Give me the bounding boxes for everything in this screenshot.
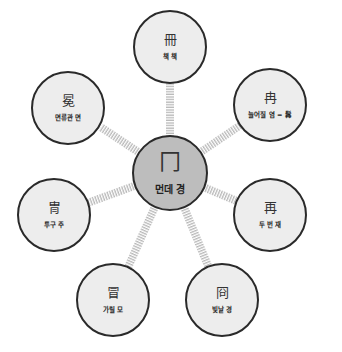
node-hanja: 冊 (164, 33, 177, 46)
node-label: 두 번 재 (259, 219, 282, 229)
node-hanja: 冒 (107, 286, 120, 299)
node-upper-left: 冕 면류관 면 (31, 71, 105, 145)
node-label: 늘어질 염 = 髥 (248, 109, 291, 119)
hub-hanja: 冂 (159, 151, 181, 173)
hub-node: 冂 먼데 경 (132, 135, 208, 211)
node-hanja: 冑 (48, 201, 61, 214)
node-label: 빛날 경 (212, 304, 232, 314)
node-left: 冑 투구 주 (17, 178, 91, 252)
node-label: 가릴 모 (103, 304, 123, 314)
node-lower-right: 冏 빛날 경 (185, 263, 259, 337)
node-lower-left: 冒 가릴 모 (76, 263, 150, 337)
node-upper-right: 冉 늘어질 염 = 髥 (233, 68, 307, 142)
connector-lines (166, 83, 174, 137)
node-hanja: 冕 (62, 94, 75, 107)
node-label: 투구 주 (44, 219, 64, 229)
node-hanja: 冉 (264, 91, 277, 104)
node-hanja: 冏 (216, 286, 229, 299)
node-hanja: 再 (264, 201, 277, 214)
radial-diagram: 冂 먼데 경 冊 책 책 冉 늘어질 염 = 髥 再 두 번 재 冏 빛날 경 … (0, 0, 342, 352)
node-label: 면류관 면 (55, 112, 81, 122)
node-label: 책 책 (163, 51, 177, 61)
node-top: 冊 책 책 (133, 10, 207, 84)
node-right: 再 두 번 재 (233, 178, 307, 252)
hub-label: 먼데 경 (155, 181, 185, 196)
